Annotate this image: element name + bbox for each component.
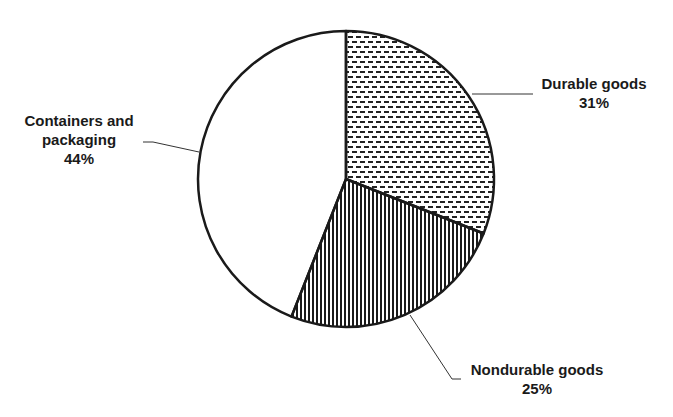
pie-slices [198, 31, 494, 327]
label-containers-name-line2: packaging [14, 130, 144, 149]
label-nondurable-goods: Nondurable goods 25% [458, 360, 616, 398]
label-nondurable-percent: 25% [458, 379, 616, 398]
leader-line-nondurable [410, 315, 461, 379]
label-nondurable-name: Nondurable goods [458, 360, 616, 379]
label-durable-goods: Durable goods 31% [530, 74, 658, 112]
pie-chart [0, 0, 673, 417]
label-containers-percent: 44% [14, 149, 144, 168]
label-containers-and-packaging: Containers and packaging 44% [14, 111, 144, 168]
label-durable-percent: 31% [530, 93, 658, 112]
label-durable-name: Durable goods [530, 74, 658, 93]
label-containers-name-line1: Containers and [14, 111, 144, 130]
leader-line-containers [143, 142, 199, 152]
